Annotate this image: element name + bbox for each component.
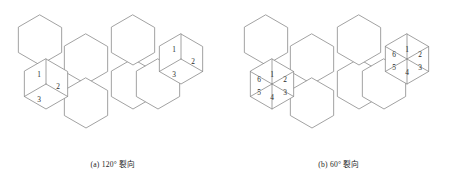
hex-top-left-face xyxy=(244,15,287,65)
caption-panel-a: (a) 120° 裂向 xyxy=(0,158,226,169)
left-split-hexagon-sector-label: 3 xyxy=(37,95,41,104)
left-split-hexagon-sector-label: 5 xyxy=(257,88,261,97)
hex-lower-mid xyxy=(290,78,333,128)
figure-panel-b: 123456123456 (b) 60° 裂向 xyxy=(226,0,452,184)
right-split-hexagon-sector-label: 5 xyxy=(392,63,396,72)
left-split-hexagon-sector-label: 2 xyxy=(283,75,287,84)
left-split-hexagon-sector-label: 2 xyxy=(56,82,60,91)
hex-lower-mid-face xyxy=(290,78,333,128)
right-split-hexagon-sector-label: 3 xyxy=(172,70,176,79)
left-split-hexagon-sector-label: 1 xyxy=(37,70,41,79)
right-split-hexagon-sector-label: 1 xyxy=(405,45,409,54)
left-split-hexagon: 123 xyxy=(24,59,67,109)
caption-panel-b: (b) 60° 裂向 xyxy=(226,158,452,169)
hex-right-upper-face xyxy=(111,15,154,65)
hex-right-upper xyxy=(111,15,154,65)
hex-upper-mid-face xyxy=(64,34,107,84)
hex-right-upper xyxy=(337,15,380,65)
right-split-hexagon-sector-label: 2 xyxy=(191,57,195,66)
left-split-hexagon-sector-label: 6 xyxy=(257,75,261,84)
hex-lattice-diagram-60: 123456123456 xyxy=(226,0,452,152)
right-split-hexagon-sector-label: 2 xyxy=(418,50,422,59)
hex-right-upper-face xyxy=(337,15,380,65)
left-split-hexagon-sector-label: 1 xyxy=(270,70,274,79)
right-split-hexagon-sector-label: 3 xyxy=(418,63,422,72)
left-split-hexagon-sector-label: 4 xyxy=(270,93,274,102)
hex-upper-mid xyxy=(64,34,107,84)
hex-top-left xyxy=(18,15,61,65)
left-split-hexagon: 123456 xyxy=(250,59,293,109)
hex-upper-mid-face xyxy=(290,34,333,84)
figure-root: 123123 (a) 120° 裂向 123456123456 (b) 60° … xyxy=(0,0,452,184)
hex-lattice-diagram-120: 123123 xyxy=(0,0,226,152)
hex-lower-mid xyxy=(64,78,107,128)
left-split-hexagon-sector-label: 3 xyxy=(283,88,287,97)
figure-panel-a: 123123 (a) 120° 裂向 xyxy=(0,0,226,184)
hex-top-left xyxy=(244,15,287,65)
right-split-hexagon-sector-label: 4 xyxy=(405,68,409,77)
panel-a-canvas: 123123 xyxy=(0,0,226,152)
right-split-hexagon-sector-label: 1 xyxy=(172,45,176,54)
hex-top-left-face xyxy=(18,15,61,65)
hex-upper-mid xyxy=(290,34,333,84)
right-split-hexagon-sector-label: 6 xyxy=(392,50,396,59)
panel-b-canvas: 123456123456 xyxy=(226,0,452,152)
hex-lower-mid-face xyxy=(64,78,107,128)
